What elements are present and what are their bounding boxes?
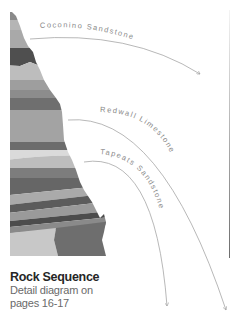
rock-sequence-diagram: Coconino Sandstone Redwall Limestone Tap… xyxy=(0,0,231,317)
rock-strata xyxy=(0,0,120,256)
page-edge-divider xyxy=(229,10,230,258)
caption-line-2: pages 16-17 xyxy=(10,297,120,310)
caption: Rock Sequence Detail diagram on pages 16… xyxy=(10,271,120,309)
coconino-arrow xyxy=(30,37,200,74)
caption-title: Rock Sequence xyxy=(10,271,120,284)
tapeats-label: Tapeats Sandstone xyxy=(100,147,167,210)
caption-line-1: Detail diagram on xyxy=(10,284,120,297)
